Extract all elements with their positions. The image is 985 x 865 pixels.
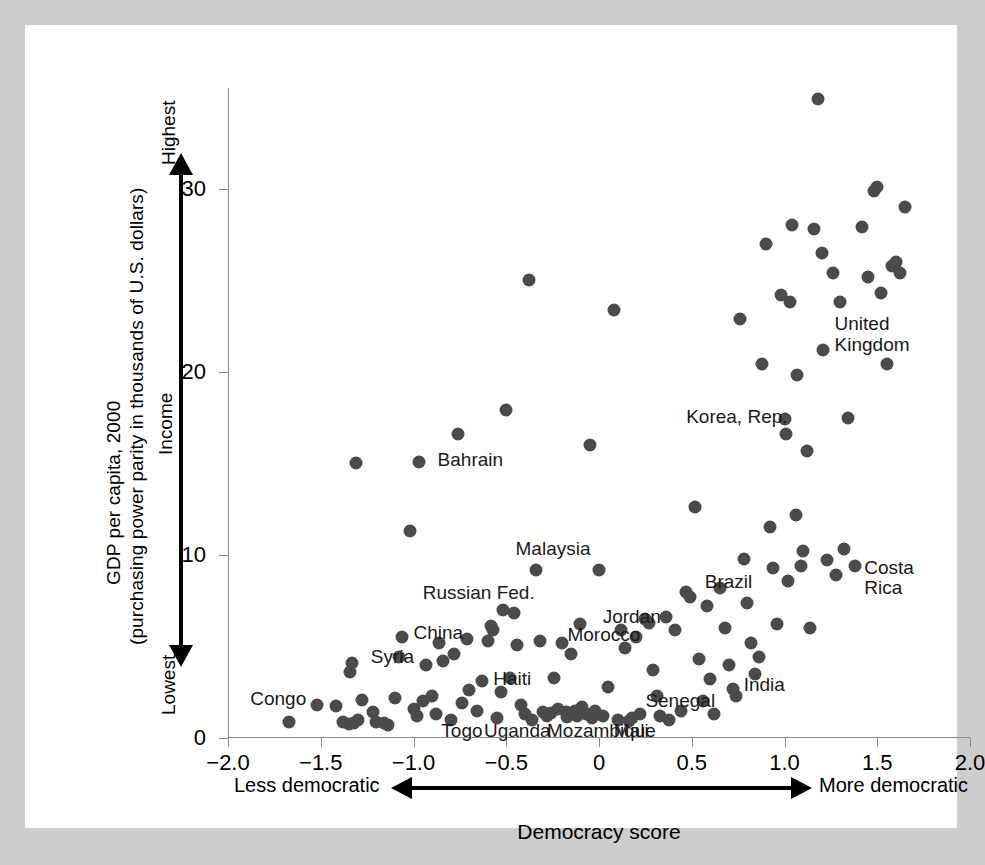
point-label: Morocco (567, 625, 640, 646)
scatter-point (659, 611, 672, 624)
scatter-point (834, 296, 847, 309)
chart-canvas: GDP per capita, 2000 (purchasing power p… (25, 25, 957, 828)
scatter-point (351, 713, 364, 726)
scatter-point (737, 552, 750, 565)
democracy-arrow-shaft (410, 786, 792, 790)
scatter-point (448, 647, 461, 660)
scatter-point (811, 92, 824, 105)
point-label: Uganda (484, 721, 551, 742)
scatter-point (804, 622, 817, 635)
scatter-point (344, 666, 357, 679)
y-axis-highest-label: Highest (158, 101, 180, 165)
y-tick: 10 (219, 555, 228, 556)
scatter-point (880, 358, 893, 371)
scatter-point (555, 636, 568, 649)
scatter-point (899, 201, 912, 214)
scatter-point (388, 691, 401, 704)
scatter-point (848, 559, 861, 572)
scatter-point (470, 704, 483, 717)
scatter-point (583, 439, 596, 452)
scatter-point (789, 508, 802, 521)
scatter-point (830, 569, 843, 582)
scatter-point (745, 636, 758, 649)
scatter-point (785, 219, 798, 232)
scatter-point (700, 600, 713, 613)
scatter-point (452, 428, 465, 441)
scatter-point (507, 607, 520, 620)
x-tick (692, 738, 693, 747)
y-tick-label: 10 (182, 542, 206, 568)
scatter-point (522, 274, 535, 287)
x-axis-less-democratic-label: Less democratic (234, 774, 380, 797)
scatter-point (741, 596, 754, 609)
scatter-point (871, 180, 884, 193)
scatter-point (841, 411, 854, 424)
plot-area: 0102030 −2.0−1.5−1.0−0.500.51.01.52.0 Co… (228, 88, 970, 738)
scatter-point (381, 719, 394, 732)
scatter-point (795, 559, 808, 572)
scatter-point (311, 699, 324, 712)
scatter-point (752, 651, 765, 664)
point-label: Korea, Rep. (686, 407, 787, 428)
x-tick (970, 738, 971, 747)
scatter-point (791, 369, 804, 382)
scatter-point (593, 563, 606, 576)
x-axis-title: Democracy score (228, 820, 970, 844)
scatter-point (411, 710, 424, 723)
point-label: Togo (441, 721, 482, 742)
scatter-point (800, 444, 813, 457)
scatter-point (756, 358, 769, 371)
scatter-point (821, 554, 834, 567)
scatter-point (500, 404, 513, 417)
scatter-point (463, 684, 476, 697)
scatter-point (704, 673, 717, 686)
scatter-point (607, 303, 620, 316)
scatter-point (780, 428, 793, 441)
point-label: Bahrain (438, 450, 504, 471)
y-tick-label: 0 (194, 725, 206, 751)
point-label: India (744, 675, 785, 696)
scatter-point (771, 618, 784, 631)
arrow-left-icon (391, 777, 412, 799)
scatter-point (693, 653, 706, 666)
scatter-point (784, 296, 797, 309)
y-axis-lowest-label: Lowest (158, 655, 180, 715)
scatter-point (856, 221, 869, 234)
point-label: United Kingdom (835, 314, 910, 355)
scatter-point (826, 266, 839, 279)
x-tick (228, 738, 229, 747)
y-tick: 0 (219, 738, 228, 739)
point-label: Senegal (645, 691, 715, 712)
scatter-point (602, 680, 615, 693)
scatter-point (548, 671, 561, 684)
scatter-point (413, 455, 426, 468)
scatter-point (533, 634, 546, 647)
y-tick-label: 20 (182, 359, 206, 385)
scatter-point (719, 622, 732, 635)
y-tick: 30 (219, 189, 228, 190)
x-tick (785, 738, 786, 747)
point-label: Jordan (603, 607, 661, 628)
x-tick (414, 738, 415, 747)
point-label: Brazil (705, 572, 753, 593)
scatter-point (329, 699, 342, 712)
y-axis-title-line2: (purchasing power parity in thousands of… (126, 188, 148, 645)
scatter-point (663, 713, 676, 726)
scatter-point (689, 501, 702, 514)
scatter-point (487, 623, 500, 636)
x-tick (321, 738, 322, 747)
scatter-point (349, 457, 362, 470)
y-axis-title-group: GDP per capita, 2000 (purchasing power p… (25, 25, 155, 745)
scatter-point (646, 664, 659, 677)
scatter-point (565, 647, 578, 660)
scatter-point (633, 708, 646, 721)
scatter-point (874, 287, 887, 300)
point-label: China (414, 623, 464, 644)
scatter-point (759, 237, 772, 250)
scatter-point (722, 658, 735, 671)
y-axis-income-label: Income (155, 393, 177, 455)
scatter-point (893, 266, 906, 279)
y-axis-title-line1: GDP per capita, 2000 (103, 401, 125, 585)
scatter-point (797, 545, 810, 558)
democracy-arrow-group: Less democratic More democratic (228, 770, 970, 810)
